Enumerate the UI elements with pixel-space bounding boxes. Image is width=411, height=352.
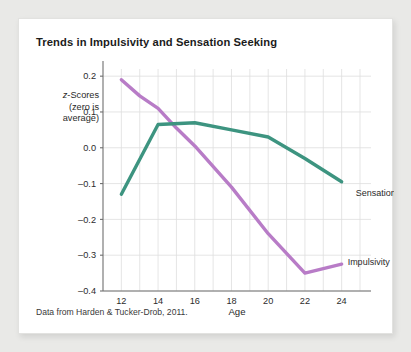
- y-tick-label: 0.2: [83, 71, 96, 81]
- x-tick-label: 14: [153, 296, 163, 306]
- series-label-sensation-seeking: Sensation seeking: [356, 188, 394, 198]
- x-tick-label: 20: [263, 296, 273, 306]
- y-tick-label: 0.1: [83, 107, 96, 117]
- series-label-impulsivity: Impulsivity: [348, 257, 391, 267]
- plot-area: 0.20.10.0–0.1–0.2–0.3–0.4 12141618202224…: [19, 19, 394, 335]
- y-tick-label: –0.3: [78, 250, 96, 260]
- x-axis-tick-labels: 12141618202224: [116, 296, 347, 306]
- screenshot-root: Trends in Impulsivity and Sensation Seek…: [0, 0, 411, 352]
- line-chart-svg: 0.20.10.0–0.1–0.2–0.3–0.4 12141618202224…: [19, 19, 394, 335]
- y-tick-label: –0.1: [78, 179, 96, 189]
- x-axis-title: Age: [228, 306, 245, 317]
- gridlines: [103, 69, 371, 291]
- x-tick-label: 18: [226, 296, 236, 306]
- x-tick-label: 16: [190, 296, 200, 306]
- x-tick-label: 12: [116, 296, 126, 306]
- y-tick-label: –0.2: [78, 215, 96, 225]
- chart-card: Trends in Impulsivity and Sensation Seek…: [18, 18, 393, 334]
- x-tick-label: 24: [337, 296, 347, 306]
- y-tick-label: 0.0: [83, 143, 96, 153]
- x-tick-label: 22: [300, 296, 310, 306]
- source-note: Data from Harden & Tucker-Drob, 2011.: [36, 307, 188, 317]
- y-axis-tick-labels: 0.20.10.0–0.1–0.2–0.3–0.4: [78, 71, 103, 296]
- y-tick-label: –0.4: [78, 286, 96, 296]
